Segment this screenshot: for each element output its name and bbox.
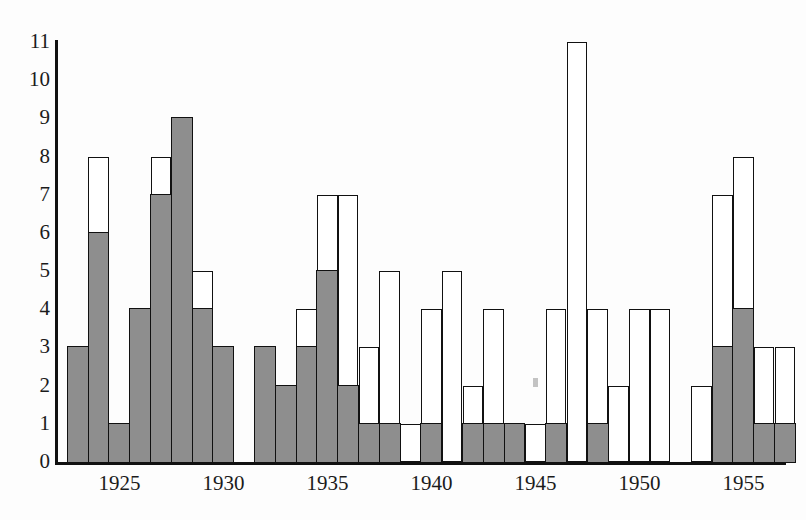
bar-filled-segment [67,346,89,462]
bar [691,386,712,462]
y-tick-label: 6 [10,222,50,243]
bar-filled-segment [212,346,234,462]
bar-filled-segment [150,194,172,463]
bar [754,347,775,462]
x-tick-label: 1940 [396,472,466,494]
bar [359,347,380,462]
bar [275,386,296,462]
bar [629,309,650,462]
bar-filled-segment [296,346,318,462]
bar [213,347,234,462]
bar [317,195,338,462]
histogram-chart: 01234567891011 1925193019351940194519501… [0,0,806,520]
bar-filled-segment [88,232,110,463]
y-tick-label: 2 [10,375,50,396]
bar [400,424,421,462]
x-tick-label: 1945 [500,472,570,494]
bar [67,347,88,462]
bar [650,309,671,462]
bar-filled-segment [129,308,151,462]
bar-filled-segment [171,117,193,462]
bar [109,424,130,462]
y-tick-label: 8 [10,146,50,167]
y-tick-label: 7 [10,184,50,205]
y-tick-label: 11 [10,31,50,52]
bar [421,309,442,462]
bar-filled-segment [192,308,214,462]
bar-filled-segment [712,346,734,462]
x-tick-label: 1930 [188,472,258,494]
bar [608,386,629,462]
bar-filled-segment [337,385,359,463]
x-tick-label: 1935 [292,472,362,494]
bar-filled-segment [462,423,484,463]
bar [171,118,192,462]
y-tick-label: 9 [10,107,50,128]
bar [567,42,588,462]
plot-area [57,42,785,462]
bar-filled-segment [420,423,442,463]
bar [296,309,317,462]
y-tick-label: 1 [10,413,50,434]
bar [151,157,172,462]
bar-filled-segment [108,423,130,463]
bar-filled-segment [753,423,775,463]
bar [255,347,276,462]
bar [192,271,213,462]
bar [775,347,796,462]
bar-filled-segment [358,423,380,463]
bar [546,309,567,462]
y-tick-label: 4 [10,298,50,319]
bar [379,271,400,462]
x-tick-label: 1925 [84,472,154,494]
bar [733,157,754,462]
y-axis-tick-labels: 01234567891011 [0,0,50,520]
bar [712,195,733,462]
bar [88,157,109,462]
y-tick-label: 0 [10,451,50,472]
bar-filled-segment [275,385,297,463]
bar [463,386,484,462]
x-tick-label: 1950 [604,472,674,494]
bar-filled-segment [379,423,401,463]
bar-filled-segment [316,270,338,463]
bar [483,309,504,462]
bar [130,309,151,462]
bar [504,424,525,462]
ink-speck-mark [533,378,538,387]
bar-filled-segment [774,423,796,463]
bar-filled-segment [254,346,276,462]
bar-filled-segment [483,423,505,463]
y-tick-label: 3 [10,336,50,357]
bar-filled-segment [504,423,526,463]
bar-filled-segment [732,308,754,462]
y-tick-label: 5 [10,260,50,281]
x-tick-label: 1955 [708,472,778,494]
bar [338,195,359,462]
bar-filled-segment [587,423,609,463]
y-tick-label: 10 [10,69,50,90]
bar [587,309,608,462]
bar [525,424,546,462]
bar-filled-segment [545,423,567,463]
bar [442,271,463,462]
